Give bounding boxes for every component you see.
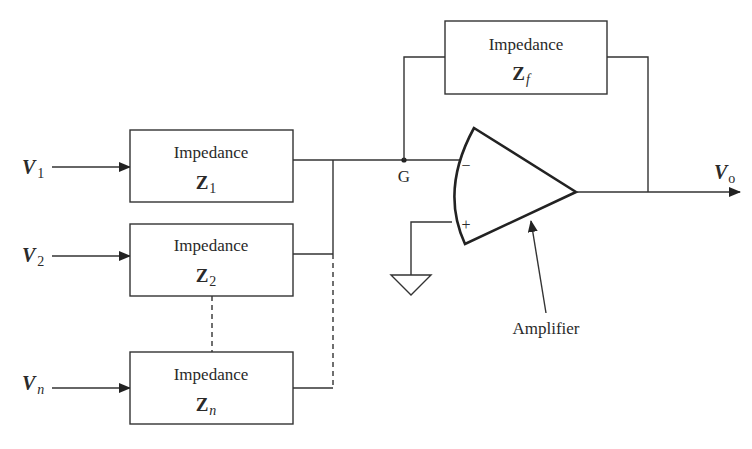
amplifier-callout-arrow [531,221,546,313]
input-v2-label: V2 [22,244,44,269]
noninverting-input-sign: + [461,216,470,233]
amplifier: − + [454,128,576,244]
input-1: V1 Impedance Z1 [22,130,293,202]
summing-amplifier-diagram: V1 Impedance Z1 V2 Impedance Z2 Vn Imped… [0,0,752,449]
summing-bus [293,160,466,388]
amplifier-label: Amplifier [512,319,579,338]
impedance-zf-label: Impedance [489,35,564,54]
impedance-z1-label: Impedance [174,143,249,162]
node-g-label: G [398,167,410,186]
input-vn-label: Vn [22,372,44,397]
ground-icon [391,222,452,295]
input-2: V2 Impedance Z2 [22,224,293,296]
input-v1-label: V1 [22,156,44,181]
impedance-zn-label: Impedance [174,365,249,384]
inverting-input-sign: − [461,157,470,174]
output-vo-label: Vo [714,161,735,186]
amplifier-triangle [454,128,576,244]
impedance-z2-label: Impedance [174,236,249,255]
input-n: Vn Impedance Zn [22,352,293,424]
